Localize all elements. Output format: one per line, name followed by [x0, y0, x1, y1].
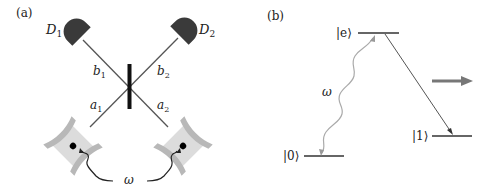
level-excited-label: |e⟩ — [336, 26, 352, 40]
level-ground-0-label: |0⟩ — [283, 149, 299, 163]
mode-b2-label: b2 — [157, 64, 170, 80]
detector-d2-icon — [170, 12, 203, 45]
drive-omega-label-a: ω — [124, 173, 134, 187]
excitation-arrowhead-icon — [370, 35, 375, 42]
cavity-1-icon — [43, 116, 102, 175]
mode-b1-label: b1 — [93, 64, 106, 80]
mode-a2-label: a2 — [157, 98, 169, 114]
decay-line — [385, 34, 451, 132]
panel-b: (b) |e⟩ |0⟩ |1⟩ ω — [267, 9, 473, 163]
excitation-tail-arrowhead-icon — [319, 149, 324, 156]
cavity-2-icon — [153, 116, 212, 175]
panel-a-label: (a) — [16, 6, 33, 20]
beam-b1-a2 — [83, 40, 168, 127]
diagram-canvas: (a) D1 D2 b1 b2 a1 a2 — [0, 0, 486, 192]
output-arrow-icon — [461, 76, 473, 86]
detector-d1-label: D1 — [45, 22, 62, 39]
panel-b-label: (b) — [267, 9, 284, 23]
drive-omega-label-b: ω — [322, 85, 332, 99]
beam-splitter — [128, 64, 132, 109]
decay-arrowhead-icon — [447, 128, 453, 135]
mode-a1-label: a1 — [90, 98, 102, 114]
level-ground-1-label: |1⟩ — [412, 129, 428, 143]
detector-d1-icon — [58, 13, 91, 46]
detector-d2-label: D2 — [198, 22, 215, 39]
panel-a: (a) D1 D2 b1 b2 a1 a2 — [16, 6, 215, 187]
